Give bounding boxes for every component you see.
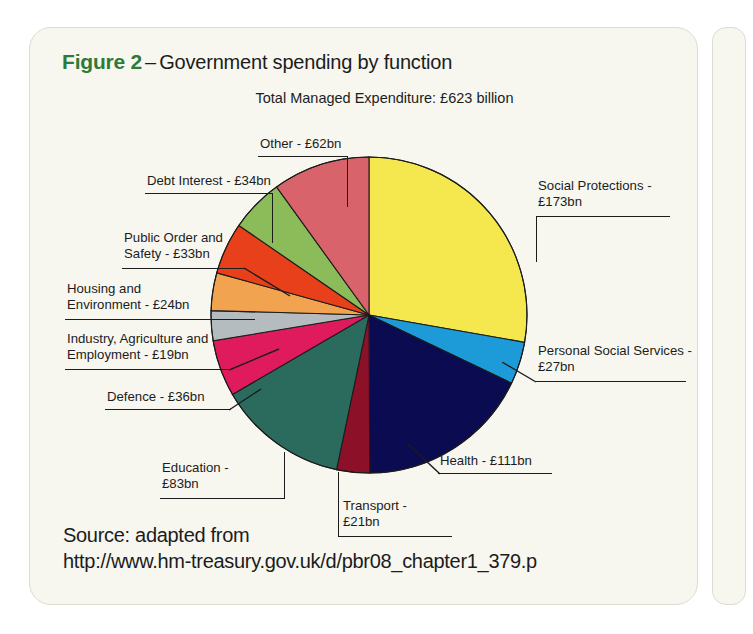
figure-card: Figure 2–Government spending by function… bbox=[29, 27, 698, 605]
leader-debt-h bbox=[145, 193, 273, 194]
callout-label-social-protections: Social Protections - £173bn bbox=[538, 178, 652, 210]
leader-debt-v bbox=[272, 193, 273, 243]
figure-number: Figure 2 bbox=[62, 50, 142, 73]
leader-education-v bbox=[284, 452, 285, 499]
leader-public-order-diag bbox=[244, 266, 292, 298]
callout-label-defence: Defence - £36bn bbox=[107, 389, 205, 405]
leader-sp-h bbox=[536, 216, 670, 217]
callout-label-industry: Industry, Agriculture and Employment - £… bbox=[67, 331, 208, 363]
leader-health-h bbox=[438, 473, 552, 474]
callout-label-other: Other - £62bn bbox=[260, 136, 341, 152]
leader-housing-h bbox=[65, 319, 255, 320]
source-line-1: Source: adapted from bbox=[63, 524, 249, 546]
callout-label-public-order: Public Order and Safety - £33bn bbox=[124, 230, 223, 262]
leader-pss-diag bbox=[502, 362, 538, 384]
callout-label-personal-social-services: Personal Social Services - £27bn bbox=[538, 343, 692, 375]
callout-label-debt-interest: Debt Interest - £34bn bbox=[147, 173, 271, 189]
page-edge-strip bbox=[712, 27, 746, 605]
leader-industry-diag bbox=[229, 348, 281, 372]
figure-header: Figure 2–Government spending by function bbox=[62, 50, 452, 74]
callout-label-housing: Housing and Environment - £24bn bbox=[67, 281, 189, 313]
leader-other-v bbox=[347, 156, 348, 207]
chart-subtitle: Total Managed Expenditure: £623 billion bbox=[30, 90, 698, 106]
leader-education-h bbox=[160, 498, 285, 499]
callout-label-health: Health - £111bn bbox=[440, 453, 532, 469]
callout-label-education: Education - £83bn bbox=[162, 460, 229, 492]
leader-defence-diag bbox=[229, 388, 263, 412]
leader-pss-h bbox=[536, 381, 686, 382]
figure-title: Government spending by function bbox=[159, 51, 452, 73]
leader-sp-v bbox=[536, 216, 537, 262]
pie-chart bbox=[207, 153, 531, 477]
leader-health-diag bbox=[408, 444, 442, 476]
leader-industry-h bbox=[65, 369, 231, 370]
leader-public-order-h bbox=[122, 268, 246, 269]
pie-slices bbox=[211, 157, 527, 473]
pie-svg bbox=[207, 153, 531, 477]
source-block: Source: adapted from http://www.hm-treas… bbox=[63, 523, 537, 574]
figure-dash: – bbox=[142, 51, 159, 73]
leader-defence-h bbox=[105, 409, 231, 410]
leader-other-h bbox=[258, 156, 348, 157]
pie-slice-social-protections[interactable] bbox=[369, 157, 527, 342]
source-url: http://www.hm-treasury.gov.uk/d/pbr08_ch… bbox=[63, 549, 537, 575]
